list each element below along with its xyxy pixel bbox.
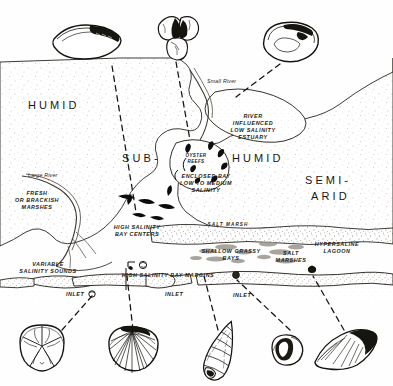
specimen-clam-interior bbox=[264, 22, 319, 62]
specimen-wedge-clam bbox=[315, 330, 377, 370]
specimen-cockle bbox=[109, 326, 158, 373]
coastal-environment-diagram: HUMIDSUB-HUMIDSEMI-ARID RIVERINFLUENCEDL… bbox=[0, 0, 393, 386]
diagram-artwork bbox=[0, 0, 393, 386]
barrier-island-east bbox=[196, 271, 393, 286]
leader-sanddollar-to-inlet bbox=[62, 296, 92, 330]
specimen-oyster bbox=[158, 17, 198, 60]
marsh-patches bbox=[190, 241, 304, 263]
specimen-small-bivalve bbox=[272, 335, 303, 365]
specimen-turret-snail bbox=[200, 317, 242, 383]
specimen-sand-dollar bbox=[20, 325, 64, 371]
leader-bivalve-to-marshes bbox=[237, 280, 290, 330]
specimen-mussel bbox=[53, 25, 121, 59]
